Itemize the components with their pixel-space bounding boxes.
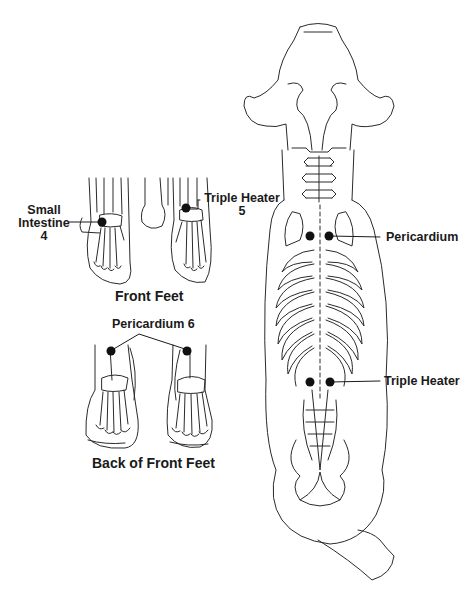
label-pericardium-6: Pericardium 6 bbox=[112, 318, 195, 331]
dog-skeleton-illustration bbox=[244, 24, 394, 581]
point-triple-heater-body-left bbox=[306, 378, 315, 387]
label-triple-heater-5: Triple Heater 5 bbox=[200, 192, 284, 218]
caption-back-of-front-feet: Back of Front Feet bbox=[92, 457, 215, 470]
point-pericardium-body-right bbox=[325, 232, 334, 241]
back-of-front-feet-illustration bbox=[86, 345, 212, 448]
tail bbox=[318, 530, 394, 580]
label-small-intestine-4: Small Intestine 4 bbox=[18, 204, 70, 243]
label-triple-heater: Triple Heater bbox=[384, 375, 460, 388]
point-triple-heater-5 bbox=[182, 204, 191, 213]
label-line: 5 bbox=[200, 205, 284, 218]
label-pericardium: Pericardium bbox=[386, 231, 458, 244]
front-feet-illustration bbox=[80, 178, 211, 284]
point-small-intestine-4 bbox=[98, 218, 107, 227]
point-triple-heater-body-right bbox=[326, 378, 335, 387]
anatomy-drawing bbox=[0, 0, 468, 592]
label-line: 4 bbox=[18, 230, 70, 243]
point-pericardium-6-right bbox=[183, 347, 192, 356]
point-pericardium-body-left bbox=[306, 232, 315, 241]
cervical-spine bbox=[302, 156, 336, 202]
caption-front-feet: Front Feet bbox=[115, 290, 183, 303]
point-pericardium-6-left bbox=[107, 347, 116, 356]
